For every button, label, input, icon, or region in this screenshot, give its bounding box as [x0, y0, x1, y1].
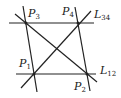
- label-l12: L12: [99, 64, 116, 78]
- point-p3: [25, 22, 28, 25]
- point-p4: [77, 22, 80, 25]
- line-p3-p2: [15, 14, 97, 82]
- point-p1: [33, 73, 36, 76]
- label-p1: P1: [18, 57, 31, 71]
- label-p3: P3: [27, 7, 40, 21]
- geometry-diagram: P3 P4 L34 P1 L12 P2: [0, 0, 121, 98]
- label-p4: P4: [61, 5, 74, 19]
- label-l34: L34: [93, 8, 111, 22]
- label-p2: P2: [73, 80, 86, 94]
- point-p2: [86, 73, 89, 76]
